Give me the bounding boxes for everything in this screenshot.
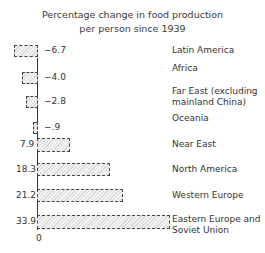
value-far-east: −2.8 xyxy=(44,96,66,106)
chart-title-line-1: Percentage change in food production xyxy=(0,8,265,22)
bar-eastern-europe xyxy=(37,215,170,229)
label-near-east: Near East xyxy=(172,139,216,150)
chart-title-line-2: per person since 1939 xyxy=(0,22,265,36)
label-latin-america: Latin America xyxy=(172,45,234,56)
bar-africa xyxy=(22,72,38,84)
bar-far-east xyxy=(26,96,38,108)
value-africa: −4.0 xyxy=(44,72,66,82)
label-north-america: North America xyxy=(172,164,237,175)
bar-near-east xyxy=(37,138,70,152)
bar-north-america xyxy=(37,163,110,176)
label-oceania: Oceania xyxy=(172,113,209,124)
label-western-europe: Western Europe xyxy=(172,190,243,201)
bar-oceania xyxy=(33,122,38,134)
label-far-east: Far East (excluding mainland China) xyxy=(172,86,258,108)
label-africa: Africa xyxy=(172,63,198,74)
label-eastern-europe: Eastern Europe and Soviet Union xyxy=(172,214,261,236)
value-eastern-europe: 33.9 xyxy=(16,216,36,226)
value-latin-america: −6.7 xyxy=(44,45,66,55)
x-tick-zero: 0 xyxy=(36,233,42,243)
bar-latin-america xyxy=(14,45,38,57)
bar-western-europe xyxy=(37,189,123,202)
value-near-east: 7.9 xyxy=(20,139,34,149)
value-north-america: 18.3 xyxy=(16,164,36,174)
value-oceania: −.9 xyxy=(44,122,60,132)
value-western-europe: 21.2 xyxy=(16,190,36,200)
chart-title: Percentage change in food production per… xyxy=(0,8,265,36)
